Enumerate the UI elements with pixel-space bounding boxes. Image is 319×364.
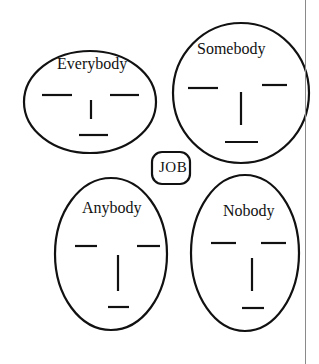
face-label-everybody: Everybody [57,55,127,73]
face-label-anybody: Anybody [82,199,142,217]
face-label-nobody: Nobody [223,202,275,220]
page-edge-rule [305,0,306,364]
diagram-canvas: Everybody Somebody Anybody Nobody JOB [0,0,319,364]
face-label-somebody: Somebody [197,40,265,58]
job-label: JOB [159,159,187,176]
face-nobody [191,175,299,331]
faces-diagram [0,0,319,364]
